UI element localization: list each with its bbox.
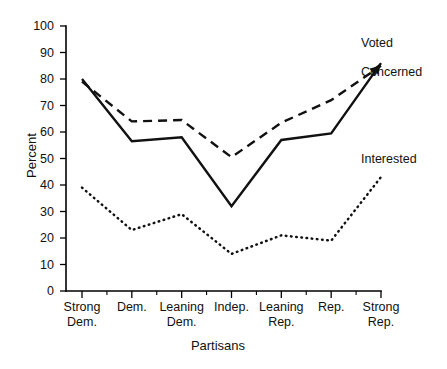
- chart-figure: 0102030405060708090100 StrongDem.Dem.Lea…: [0, 0, 447, 369]
- series-label-interested: Interested: [361, 152, 417, 166]
- axes: [66, 26, 381, 291]
- y-tick-label-10: 10: [20, 259, 54, 271]
- y-tick-label-40: 40: [20, 179, 54, 191]
- series-path-voted: [82, 63, 381, 206]
- y-tick-label-80: 80: [20, 73, 54, 85]
- y-tick-label-70: 70: [20, 100, 54, 112]
- series-path-concerned: [82, 66, 381, 157]
- series-label-concerned: Concerned: [361, 65, 422, 79]
- x-tick-label-line2: Dem.: [38, 315, 126, 330]
- y-tick-label-90: 90: [20, 47, 54, 59]
- y-tick-label-0: 0: [20, 285, 54, 297]
- x-tick-label-line1: Strong: [363, 300, 400, 314]
- y-axis-title: Percent: [24, 133, 39, 178]
- x-axis-ticks: [82, 291, 381, 298]
- x-tick-label-6: StrongRep.: [337, 300, 425, 329]
- data-series: [82, 63, 381, 254]
- x-tick-label-line2: Dem.: [138, 315, 226, 330]
- y-tick-label-30: 30: [20, 206, 54, 218]
- y-axis-ticks: [60, 26, 66, 291]
- x-axis-title: Partisans: [153, 338, 283, 353]
- x-tick-label-line2: Rep.: [237, 315, 325, 330]
- series-path-interested: [82, 177, 381, 254]
- y-tick-label-20: 20: [20, 232, 54, 244]
- x-tick-label-line2: Rep.: [337, 315, 425, 330]
- y-tick-label-100: 100: [20, 20, 54, 32]
- series-label-voted: Voted: [361, 36, 393, 50]
